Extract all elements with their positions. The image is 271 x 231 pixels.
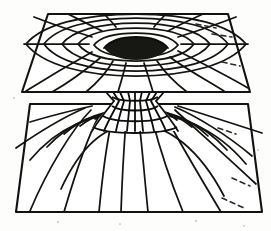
- wormhole-figure: Wormhole embedding diagram Einstein-Rose…: [0, 0, 271, 231]
- upper-sheet: [22, 14, 250, 92]
- wormhole-diagram: [0, 0, 271, 231]
